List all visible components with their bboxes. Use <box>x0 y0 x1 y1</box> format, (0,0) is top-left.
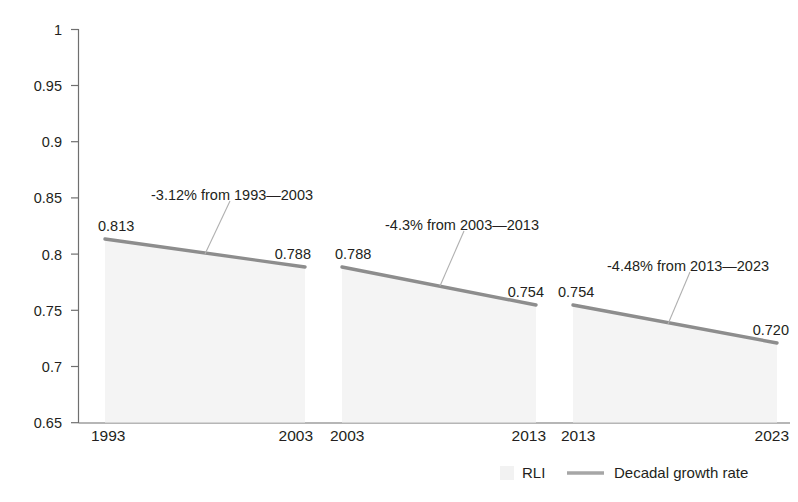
panel-2003-2013: -4.3% from 2003—2013 0.788 0.754 2003 20… <box>330 217 546 444</box>
rli-decadal-growth-chart: 1 0.95 0.9 0.85 0.8 0.75 0.7 0.65 -3.12%… <box>0 0 798 502</box>
point-label-2013-b: 0.754 <box>558 284 594 300</box>
legend-label-decadal-growth-rate: Decadal growth rate <box>614 464 748 481</box>
y-tick-label-09: 0.9 <box>42 134 62 150</box>
annotation-1993-2003: -3.12% from 1993—2003 <box>151 187 313 203</box>
chart-container: 1 0.95 0.9 0.85 0.8 0.75 0.7 0.65 -3.12%… <box>0 0 798 502</box>
panel-2013-2023: -4.48% from 2013—2023 0.754 0.720 2013 2… <box>558 258 789 444</box>
x-tick-label-2003-a: 2003 <box>279 427 313 444</box>
y-tick-label-095: 0.95 <box>34 78 62 94</box>
annotation-leader-line-2 <box>440 231 464 286</box>
y-tick-label-08: 0.8 <box>42 247 62 263</box>
annotation-leader-line-3 <box>668 272 690 324</box>
point-label-2013-a: 0.754 <box>508 284 544 300</box>
y-tick-label-07: 0.7 <box>42 359 62 375</box>
y-tick-label-075: 0.75 <box>34 303 62 319</box>
panel-1993-2003: -3.12% from 1993—2003 0.813 0.788 1993 2… <box>91 187 313 444</box>
y-tick-label-065: 0.65 <box>34 415 62 431</box>
y-axis: 1 0.95 0.9 0.85 0.8 0.75 0.7 0.65 <box>34 22 79 431</box>
annotation-2003-2013: -4.3% from 2003—2013 <box>385 217 539 233</box>
x-tick-label-1993: 1993 <box>91 427 125 444</box>
point-label-1993: 0.813 <box>98 218 134 234</box>
annotation-2013-2023: -4.48% from 2013—2023 <box>607 258 769 274</box>
point-label-2023: 0.720 <box>753 322 789 338</box>
legend-swatch-rli <box>500 466 514 480</box>
annotation-leader-line-1 <box>205 201 230 254</box>
x-tick-label-2013-a: 2013 <box>512 427 546 444</box>
y-tick-label-1: 1 <box>54 22 62 38</box>
x-tick-label-2003-b: 2003 <box>330 427 364 444</box>
point-label-2003-a: 0.788 <box>275 246 311 262</box>
point-label-2003-b: 0.788 <box>335 246 371 262</box>
chart-legend: RLI Decadal growth rate <box>500 464 748 481</box>
area-fill-rli-1 <box>105 239 305 423</box>
legend-label-rli: RLI <box>522 464 545 481</box>
x-tick-label-2013-b: 2013 <box>561 427 595 444</box>
y-tick-label-085: 0.85 <box>34 190 62 206</box>
x-tick-label-2023: 2023 <box>755 427 789 444</box>
